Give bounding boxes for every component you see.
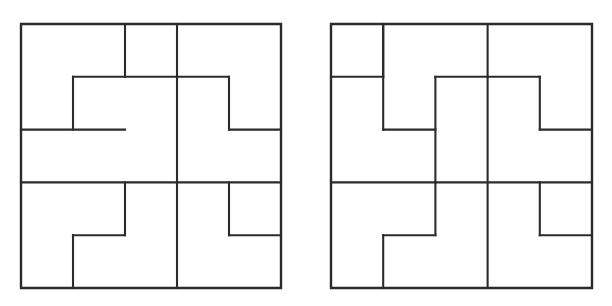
right-pinwheel-square-background <box>331 24 592 288</box>
right-figure-panel <box>0 0 612 306</box>
figure-canvas <box>0 0 612 306</box>
right-pinwheel-square-group <box>331 24 592 288</box>
right-pinwheel-svg <box>0 0 612 306</box>
